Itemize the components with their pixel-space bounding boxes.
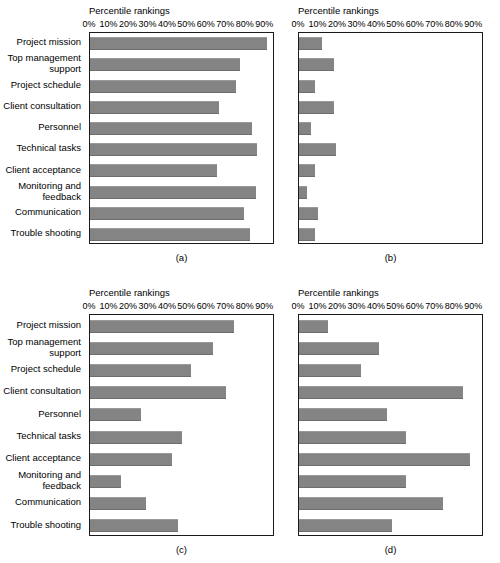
bar [90,453,172,466]
category-label: Top management support [8,337,81,358]
category-label: Project schedule [11,364,81,375]
category-label: Technical tasks [17,431,81,442]
x-tick-label: 70% [425,300,443,312]
panel-a: Percentile rankings 0%10%20%30%40%50%60%… [0,0,276,272]
x-tick-label: 30% [138,300,156,312]
x-tick-label: 40% [367,300,385,312]
category-label: Personnel [38,122,81,133]
bar [299,475,406,488]
bars-a [90,33,273,243]
bar [90,320,234,333]
x-tick-label: 70% [425,18,443,30]
x-tick-label: 50% [386,300,404,312]
panel-c: Percentile rankings 0%10%20%30%40%50%60%… [0,282,276,563]
x-tick-label: 50% [386,18,404,30]
bar [90,186,256,199]
x-tick-label: 20% [119,18,137,30]
category-label: Client acceptance [5,453,81,464]
x-tick-label: 70% [216,18,234,30]
x-tick-label: 80% [445,300,463,312]
bar [299,228,315,241]
x-tick-label: 50% [177,18,195,30]
category-label: Project mission [17,320,81,331]
bar [299,101,334,114]
x-tick-label: 10% [308,300,326,312]
x-tick-label: 90% [255,300,273,312]
bar [299,164,315,177]
x-tick-label: 60% [197,18,215,30]
x-tick-label: 60% [197,300,215,312]
panel-caption-a: (a) [89,252,274,263]
category-label: Project schedule [11,80,81,91]
category-label: Personnel [38,409,81,420]
bar [90,519,178,532]
x-tick-label: 20% [328,18,346,30]
x-tick-label: 10% [99,300,117,312]
category-label: Client consultation [3,101,81,112]
axis-title-c: Percentile rankings [89,287,170,298]
x-tick-label: 60% [406,300,424,312]
bar [90,164,217,177]
x-tick-label: 80% [445,18,463,30]
category-label: Monitoring and feedback [18,181,81,202]
panel-b: Percentile rankings 0%10%20%30%40%50%60%… [282,0,500,272]
x-axis-ticks-d: 0%10%20%30%40%50%60%70%80%90% [295,300,483,312]
x-tick-label: 60% [406,18,424,30]
panel-caption-b: (b) [298,252,483,263]
bar [90,143,257,156]
x-tick-label: 40% [158,300,176,312]
plot-area-d [298,314,483,536]
x-tick-label: 10% [99,18,117,30]
axis-title-b: Percentile rankings [298,5,379,16]
category-label: Communication [15,497,81,508]
x-tick-label: 0% [291,18,304,30]
bar [299,122,311,135]
x-tick-label: 40% [158,18,176,30]
bar [299,342,379,355]
bar [299,364,361,377]
x-axis-ticks-a: 0%10%20%30%40%50%60%70%80%90% [86,18,274,30]
axis-title-a: Percentile rankings [89,5,170,16]
panel-caption-d: (d) [298,544,483,555]
category-label: Client acceptance [5,165,81,176]
bar [90,475,121,488]
plot-area-b [298,32,483,244]
category-label: Monitoring and feedback [18,470,81,491]
bar [299,320,328,333]
bar [90,342,213,355]
x-tick-label: 80% [236,18,254,30]
x-tick-label: 0% [82,300,95,312]
bar [299,497,443,510]
bar [90,58,240,71]
x-tick-label: 80% [236,300,254,312]
bars-b [299,33,482,243]
category-label: Project mission [17,37,81,48]
bar [299,80,315,93]
bar [299,207,318,220]
bar [90,431,182,444]
bar [90,207,244,220]
x-tick-label: 30% [138,18,156,30]
x-tick-label: 50% [177,300,195,312]
x-tick-label: 20% [328,300,346,312]
x-tick-label: 0% [82,18,95,30]
category-labels-a: Project missionTop management supportPro… [0,32,85,244]
bar [90,122,252,135]
bar [299,186,307,199]
x-tick-label: 10% [308,18,326,30]
category-label: Trouble shooting [11,228,81,239]
panel-caption-c: (c) [89,544,274,555]
bar [299,519,392,532]
x-axis-ticks-b: 0%10%20%30%40%50%60%70%80%90% [295,18,483,30]
category-label: Trouble shooting [11,520,81,531]
bar [90,37,267,50]
x-tick-label: 30% [347,18,365,30]
bars-d [299,315,482,535]
plot-area-a [89,32,274,244]
bar [90,101,219,114]
plot-area-c [89,314,274,536]
bar [299,37,322,50]
x-tick-label: 40% [367,18,385,30]
panel-d: Percentile rankings 0%10%20%30%40%50%60%… [282,282,500,563]
x-tick-label: 90% [464,300,482,312]
